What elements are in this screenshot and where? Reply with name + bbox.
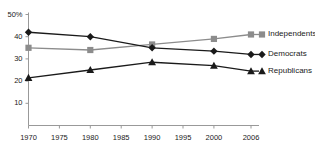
- party-identification-line-chart: 1020304050% 1970197519801985199019952000…: [0, 0, 315, 161]
- y-tick-label-50: 50%: [0, 11, 23, 19]
- x-tick-label-1995: 1995: [168, 134, 198, 142]
- x-tick-label-1975: 1975: [44, 134, 74, 142]
- legend-label-independents: Independents: [268, 30, 315, 38]
- y-tick-label-40: 40: [0, 33, 23, 41]
- data-point-independents-1970: [25, 45, 31, 51]
- x-tick-label-2000: 2000: [199, 134, 229, 142]
- data-point-democrats-2000: [210, 47, 217, 54]
- chart-series: [25, 29, 255, 81]
- legend-marker-democrats: [258, 51, 265, 58]
- x-tick-label-2006: 2006: [236, 134, 266, 142]
- data-point-independents-2000: [211, 36, 217, 42]
- x-tick-label-1970: 1970: [14, 134, 44, 142]
- y-tick-label-30: 30: [0, 55, 23, 63]
- y-tick-label-10: 10: [0, 99, 23, 107]
- legend-label-republicans: Republicans: [268, 67, 312, 75]
- legend-markers: [251, 31, 266, 74]
- legend-label-democrats: Democrats: [268, 50, 307, 58]
- x-tick-label-1985: 1985: [106, 134, 136, 142]
- data-point-independents-1980: [87, 47, 93, 53]
- y-tick-label-20: 20: [0, 77, 23, 85]
- legend-marker-republicans: [258, 67, 266, 74]
- legend-marker-independents: [259, 31, 265, 37]
- chart-axes: [26, 13, 260, 129]
- x-tick-label-1990: 1990: [137, 134, 167, 142]
- data-point-democrats-1970: [25, 29, 32, 36]
- data-point-democrats-1980: [87, 33, 94, 40]
- x-tick-label-1980: 1980: [75, 134, 105, 142]
